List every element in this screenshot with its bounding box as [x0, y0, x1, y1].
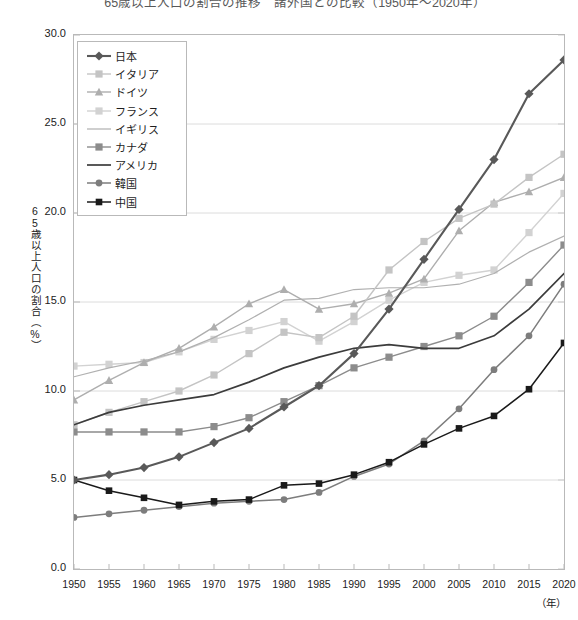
data-point [95, 107, 102, 114]
data-point [141, 507, 148, 514]
legend-item-label: ドイツ [112, 84, 148, 100]
legend-item-label: アメリカ [112, 157, 158, 173]
data-point [455, 215, 462, 222]
data-point [245, 414, 252, 421]
data-point [455, 272, 462, 279]
legend-item[interactable]: フランス [78, 102, 186, 120]
legend-item-label: 日本 [112, 48, 137, 64]
data-point [280, 329, 287, 336]
data-point [95, 71, 102, 78]
data-point [245, 300, 253, 308]
x-axis-tick-label: 1955 [89, 578, 129, 590]
data-point [561, 340, 564, 347]
data-point [525, 279, 532, 286]
legend-item-label: フランス [112, 103, 159, 119]
data-point [95, 143, 102, 150]
data-point [386, 459, 393, 466]
x-axis-tick-label: 1960 [124, 578, 164, 590]
data-point [106, 510, 113, 517]
legend-item-label: 中国 [112, 194, 137, 210]
legend-item[interactable]: カナダ [78, 138, 186, 156]
x-axis-tick-label: 2005 [439, 578, 479, 590]
data-point [351, 471, 358, 478]
line-chart: 65歳以上人口の割合の推移 諸外国との比較（1950年～2020年） 30.02… [0, 0, 578, 620]
x-axis-unit-label: （年） [536, 595, 566, 610]
data-point [280, 318, 287, 325]
data-point [315, 334, 322, 341]
data-point [210, 371, 217, 378]
legend-item[interactable]: 韓国 [78, 174, 186, 192]
x-axis-tick-label: 2020 [544, 578, 578, 590]
chart-legend: 日本イタリアドイツフランスイギリスカナダアメリカ韓国中国 [77, 41, 187, 216]
x-axis-tick-label: 1985 [299, 578, 339, 590]
legend-circle-icon [86, 177, 112, 189]
data-point [209, 438, 218, 447]
legend-item-label: イギリス [112, 121, 159, 137]
data-point [350, 313, 357, 320]
legend-square-dark-icon [86, 196, 112, 208]
x-axis-tick-label: 1970 [194, 578, 234, 590]
data-point [74, 428, 78, 435]
data-point [106, 487, 113, 494]
x-axis-tick-label: 1965 [159, 578, 199, 590]
data-point [210, 423, 217, 430]
data-point [316, 489, 323, 496]
y-axis-tick-label: 30.0 [28, 27, 66, 39]
data-point [104, 470, 113, 479]
data-point [74, 514, 77, 521]
data-point [561, 281, 564, 288]
legend-none-icon [86, 159, 112, 171]
y-axis-tick-label: 5.0 [28, 472, 66, 484]
data-point [490, 313, 497, 320]
legend-item[interactable]: ドイツ [78, 83, 186, 101]
data-point [491, 413, 498, 420]
data-point [385, 266, 392, 273]
data-point [560, 173, 564, 181]
x-axis-tick-label: 1950 [54, 578, 94, 590]
data-point [94, 51, 103, 60]
data-point [350, 364, 357, 371]
data-point [560, 151, 564, 158]
data-point [525, 229, 532, 236]
data-point [385, 289, 393, 297]
data-point [175, 344, 183, 352]
legend-item[interactable]: 日本 [78, 47, 186, 65]
data-point [491, 366, 498, 373]
data-point [526, 386, 533, 393]
data-point [456, 425, 463, 432]
legend-item[interactable]: アメリカ [78, 156, 186, 174]
y-axis-title: 65歳以上人口の割合（%） [26, 205, 40, 351]
legend-item-label: イタリア [112, 66, 159, 82]
x-axis-tick-label: 1990 [334, 578, 374, 590]
data-point [525, 187, 533, 195]
data-point [245, 327, 252, 334]
data-point [105, 376, 113, 384]
data-point [455, 332, 462, 339]
data-point [175, 428, 182, 435]
data-point [560, 241, 564, 248]
y-axis-tick-label: 0.0 [28, 561, 66, 573]
legend-square-icon [86, 68, 112, 80]
data-point [96, 180, 103, 187]
data-point [281, 496, 288, 503]
data-point [456, 405, 463, 412]
data-point [141, 495, 148, 502]
legend-item[interactable]: イタリア [78, 65, 186, 83]
data-point [74, 396, 78, 404]
y-axis-tick-label: 25.0 [28, 116, 66, 128]
legend-square-icon [86, 105, 112, 117]
data-point [490, 201, 497, 208]
data-point [211, 498, 218, 505]
legend-item-label: カナダ [112, 139, 148, 155]
data-point [560, 190, 564, 197]
data-point [420, 238, 427, 245]
data-point [525, 174, 532, 181]
legend-item[interactable]: イギリス [78, 120, 186, 138]
chart-title: 65歳以上人口の割合の推移 諸外国との比較（1950年～2020年） [60, 0, 530, 8]
legend-none-icon [86, 123, 112, 135]
x-axis-tick-label: 1975 [229, 578, 269, 590]
data-point [174, 452, 183, 461]
legend-triangle-icon [86, 86, 112, 98]
data-point [96, 198, 103, 205]
legend-item[interactable]: 中国 [78, 193, 186, 211]
